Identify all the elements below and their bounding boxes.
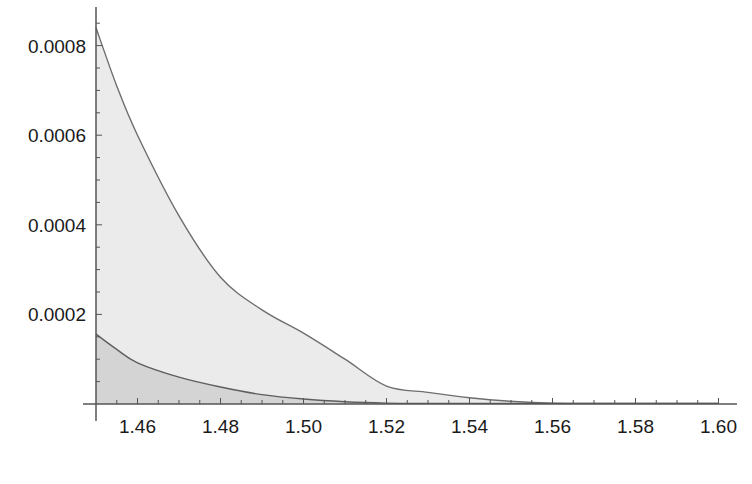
y-tick-label: 0.0002 [28, 304, 86, 325]
x-tick-label: 1.48 [202, 416, 239, 437]
y-tick-label: 0.0008 [28, 36, 86, 57]
x-tick-label: 1.56 [534, 416, 571, 437]
y-tick-label: 0.0006 [28, 125, 86, 146]
y-tick-label: 0.0004 [28, 215, 87, 236]
plot-areas [96, 28, 719, 404]
x-tick-label: 1.50 [285, 416, 322, 437]
x-tick-label: 1.52 [368, 416, 405, 437]
figure-caption-clipped [190, 476, 590, 484]
x-tick-label: 1.58 [617, 416, 654, 437]
area-chart: 0.00020.00040.00060.0008 1.461.481.501.5… [0, 0, 752, 484]
upper-curve-fill [96, 28, 719, 404]
x-tick-label: 1.54 [451, 416, 488, 437]
y-axis-ticks: 0.00020.00040.00060.0008 [28, 23, 102, 381]
x-tick-label: 1.60 [700, 416, 737, 437]
x-tick-label: 1.46 [119, 416, 156, 437]
